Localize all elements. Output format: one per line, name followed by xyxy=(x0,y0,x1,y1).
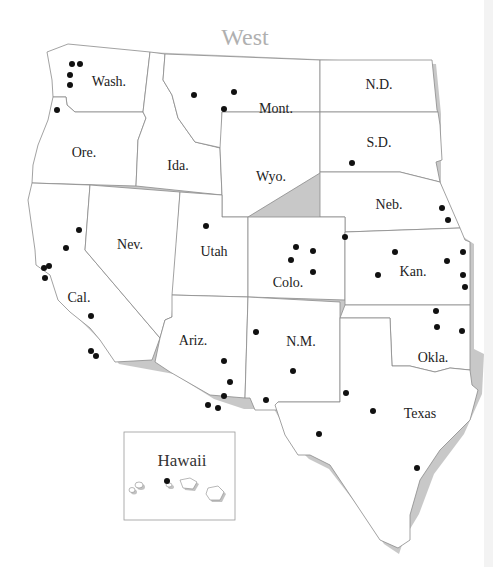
marker-tx xyxy=(343,390,349,396)
west-region-map: West Wash. Ore. Ida. Mont. Wyo. N.D. S.D… xyxy=(0,0,493,567)
marker-mt xyxy=(231,89,237,95)
marker-sd xyxy=(349,160,355,166)
label-arizona: Ariz. xyxy=(179,333,207,348)
marker-ca xyxy=(63,245,69,251)
marker-az xyxy=(205,402,211,408)
marker-ca xyxy=(42,275,48,281)
label-oregon: Ore. xyxy=(72,145,97,160)
marker-co xyxy=(310,248,316,254)
map-title: West xyxy=(221,24,269,50)
marker-ok xyxy=(434,324,440,330)
state-new-mexico[interactable] xyxy=(245,297,340,410)
marker-tx xyxy=(316,431,322,437)
marker-ks xyxy=(392,249,398,255)
label-idaho: Ida. xyxy=(167,158,188,173)
marker-co xyxy=(310,269,316,275)
marker-ks xyxy=(460,272,466,278)
marker-az xyxy=(215,405,221,411)
marker-hi xyxy=(164,478,170,484)
island-niihau xyxy=(129,488,135,493)
marker-co xyxy=(288,257,294,263)
marker-ca xyxy=(46,263,52,269)
marker-ok xyxy=(433,308,439,314)
page-edge-shade xyxy=(484,0,493,567)
hawaii-inset-frame xyxy=(124,432,235,520)
marker-mt xyxy=(221,106,227,112)
marker-wa xyxy=(77,61,83,67)
marker-ca xyxy=(76,227,82,233)
label-montana: Mont. xyxy=(259,101,293,116)
marker-nm xyxy=(263,397,269,403)
island-kauai xyxy=(135,482,143,488)
marker-tx xyxy=(370,408,376,414)
hawaii-label: Hawaii xyxy=(157,451,206,470)
label-washington: Wash. xyxy=(92,74,126,89)
marker-tx xyxy=(414,465,420,471)
marker-nm xyxy=(290,368,296,374)
marker-or xyxy=(54,107,60,113)
marker-ks xyxy=(462,284,468,290)
marker-nm xyxy=(253,329,259,335)
marker-wa xyxy=(67,72,73,78)
marker-ut xyxy=(203,223,209,229)
label-colorado: Colo. xyxy=(273,275,304,290)
marker-co xyxy=(342,234,348,240)
marker-ks xyxy=(444,258,450,264)
marker-ne xyxy=(439,205,445,211)
label-new-mexico: N.M. xyxy=(286,334,316,349)
label-south-dakota: S.D. xyxy=(367,135,392,150)
hawaii-inset: Hawaii xyxy=(124,432,235,520)
marker-az xyxy=(221,358,227,364)
marker-co xyxy=(293,244,299,250)
marker-ca xyxy=(88,313,94,319)
marker-ks xyxy=(460,249,466,255)
label-texas: Texas xyxy=(404,406,436,421)
marker-wa xyxy=(69,61,75,67)
marker-az xyxy=(221,393,227,399)
label-north-dakota: N.D. xyxy=(365,77,392,92)
marker-ne xyxy=(445,217,451,223)
marker-ca xyxy=(93,353,99,359)
label-kansas: Kan. xyxy=(400,264,427,279)
label-nevada: Nev. xyxy=(117,237,143,252)
label-nebraska: Neb. xyxy=(376,197,403,212)
label-utah: Utah xyxy=(200,244,227,259)
marker-mt xyxy=(191,92,197,98)
label-oklahoma: Okla. xyxy=(418,350,449,365)
label-california: Cal. xyxy=(68,290,91,305)
marker-wa xyxy=(67,82,73,88)
label-wyoming: Wyo. xyxy=(256,169,286,184)
marker-ca xyxy=(88,348,94,354)
marker-az xyxy=(227,379,233,385)
marker-ok xyxy=(459,328,465,334)
marker-ks xyxy=(375,272,381,278)
